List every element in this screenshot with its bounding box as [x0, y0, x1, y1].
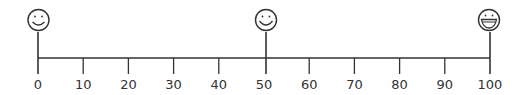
tick-label-80: 80	[391, 77, 408, 92]
tick-label-40: 40	[211, 77, 228, 92]
slight-smile-face-icon	[28, 10, 49, 31]
marker-100	[479, 10, 500, 75]
tick-label-100: 100	[478, 77, 503, 92]
marker-0	[28, 10, 49, 75]
tick-label-20: 20	[120, 77, 137, 92]
tick-label-30: 30	[165, 77, 182, 92]
tick-label-70: 70	[346, 77, 363, 92]
marker-50	[256, 10, 277, 75]
tick-label-60: 60	[301, 77, 318, 92]
tick-label-50: 50	[256, 77, 273, 92]
smile-face-icon	[256, 10, 277, 31]
number-line-diagram: 0102030405060708090100	[0, 0, 527, 95]
tick-label-0: 0	[34, 77, 42, 92]
big-grin-face-icon	[479, 10, 500, 31]
tick-label-90: 90	[437, 77, 454, 92]
tick-label-10: 10	[75, 77, 92, 92]
